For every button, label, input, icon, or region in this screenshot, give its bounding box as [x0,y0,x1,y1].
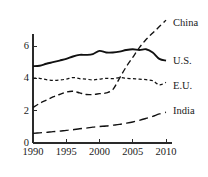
series-line-eu [33,78,166,85]
y-tick-label: 2 [24,105,29,116]
x-tick-label: 2000 [89,147,110,158]
x-tick-label: 2010 [156,147,177,158]
x-tick-label: 2005 [122,147,143,158]
series-line-china [33,20,166,107]
series-label-eu: E.U. [173,80,192,91]
y-tick-label: 4 [24,73,29,84]
y-tick-label: 0 [24,138,29,149]
series-label-china: China [173,17,198,28]
line-chart: 19901995200020052010 0246 ChinaU.S.E.U.I… [0,0,208,177]
chart-tick-marks [33,46,166,143]
series-label-india: India [173,105,195,116]
series-label-us: U.S. [173,55,192,66]
x-tick-label: 1990 [23,147,44,158]
series-line-us [33,49,166,66]
y-tick-label: 6 [24,41,29,52]
series-line-india [33,112,166,133]
x-tick-label: 1995 [56,147,77,158]
chart-series-lines [33,20,166,133]
